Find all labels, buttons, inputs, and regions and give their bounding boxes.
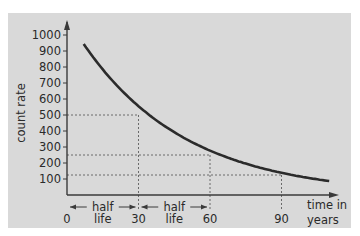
y-tick-label: 600 <box>39 92 61 106</box>
y-tick-label: 800 <box>39 60 61 74</box>
y-axis-ticks: 1002003004005006007008009001000 <box>32 28 67 186</box>
y-tick-label: 400 <box>39 124 61 138</box>
decay-chart: 1002003004005006007008009001000 0306090 … <box>0 0 360 236</box>
arrow-left-icon <box>70 205 76 210</box>
y-tick-label: 700 <box>39 76 61 90</box>
arrow-right-icon <box>201 205 207 210</box>
arrow-left-icon <box>142 205 148 210</box>
axes <box>64 20 339 198</box>
arrow-right-icon <box>130 205 136 210</box>
x-axis-label-line2: years <box>307 213 339 227</box>
half-life-label: life <box>94 212 112 226</box>
y-tick-label: 200 <box>39 156 61 170</box>
x-tick-label: 0 <box>63 212 70 226</box>
y-axis-label: count rate <box>14 83 28 142</box>
y-axis-arrow-icon <box>64 20 70 30</box>
y-tick-label: 500 <box>39 108 61 122</box>
half-life-label: life <box>165 212 183 226</box>
y-tick-label: 300 <box>39 140 61 154</box>
x-tick-label: 30 <box>131 212 146 226</box>
x-tick-label: 90 <box>274 212 289 226</box>
decay-curve <box>84 44 330 181</box>
x-axis-label-line1: time in <box>307 198 347 212</box>
y-tick-label: 900 <box>39 44 61 58</box>
y-tick-label: 1000 <box>32 28 61 42</box>
y-tick-label: 100 <box>39 172 61 186</box>
x-tick-label: 60 <box>203 212 218 226</box>
